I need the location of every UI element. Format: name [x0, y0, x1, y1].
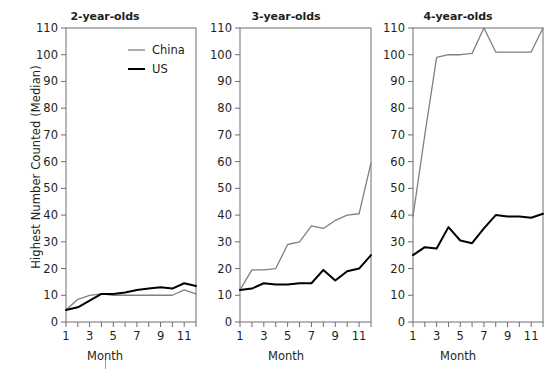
y-tick-label: 30 — [43, 235, 58, 249]
y-tick-label: 110 — [36, 21, 58, 35]
plot-frame — [413, 28, 543, 322]
series-line-china — [66, 290, 196, 310]
x-tick-label: 7 — [133, 329, 140, 343]
y-tick-label: 80 — [43, 101, 58, 115]
y-tick-label: 70 — [217, 128, 232, 142]
y-tick-label: 90 — [390, 74, 405, 88]
y-tick-label: 110 — [210, 21, 232, 35]
x-tick-label: 5 — [110, 329, 117, 343]
legend-label-us: US — [152, 62, 168, 76]
legend: ChinaUS — [128, 43, 185, 76]
y-tick-label: 110 — [383, 21, 405, 35]
x-tick-label: 5 — [457, 329, 464, 343]
y-tick-label: 0 — [398, 315, 405, 329]
y-tick-label: 100 — [210, 48, 232, 62]
x-tick-label: 3 — [433, 329, 440, 343]
y-tick-label: 40 — [217, 208, 232, 222]
y-tick-label: 40 — [390, 208, 405, 222]
x-tick-label: 5 — [284, 329, 291, 343]
y-tick-label: 100 — [383, 48, 405, 62]
x-tick-label: 1 — [409, 329, 416, 343]
y-tick-label: 60 — [390, 155, 405, 169]
y-tick-label: 10 — [217, 288, 232, 302]
panel-plot-2: 01020304050607080901001101357911 — [383, 21, 543, 343]
x-tick-label: 11 — [177, 329, 192, 343]
x-tick-label: 9 — [157, 329, 164, 343]
plot-canvas: 01020304050607080901001101357911ChinaUS0… — [0, 0, 553, 374]
x-tick-label: 3 — [260, 329, 267, 343]
x-tick-label: 1 — [62, 329, 69, 343]
y-tick-label: 30 — [390, 235, 405, 249]
x-tick-label: 3 — [86, 329, 93, 343]
y-tick-label: 20 — [390, 262, 405, 276]
legend-label-china: China — [152, 43, 185, 57]
x-tick-label: 7 — [308, 329, 315, 343]
y-tick-label: 80 — [390, 101, 405, 115]
y-tick-label: 90 — [217, 74, 232, 88]
x-tick-label: 9 — [332, 329, 339, 343]
y-tick-label: 20 — [217, 262, 232, 276]
y-tick-label: 50 — [217, 181, 232, 195]
y-tick-label: 60 — [43, 155, 58, 169]
panel-plot-0: 01020304050607080901001101357911ChinaUS — [36, 21, 196, 343]
x-tick-label: 1 — [236, 329, 243, 343]
y-tick-label: 60 — [217, 155, 232, 169]
y-tick-label: 80 — [217, 101, 232, 115]
y-tick-label: 100 — [36, 48, 58, 62]
y-tick-label: 50 — [43, 181, 58, 195]
y-tick-label: 30 — [217, 235, 232, 249]
y-tick-label: 20 — [43, 262, 58, 276]
y-tick-label: 50 — [390, 181, 405, 195]
plot-frame — [66, 28, 196, 322]
y-tick-label: 10 — [390, 288, 405, 302]
x-tick-label: 11 — [524, 329, 539, 343]
y-tick-label: 0 — [51, 315, 58, 329]
y-tick-label: 10 — [43, 288, 58, 302]
y-tick-label: 70 — [43, 128, 58, 142]
y-tick-label: 70 — [390, 128, 405, 142]
y-tick-label: 0 — [225, 315, 232, 329]
x-tick-label: 7 — [480, 329, 487, 343]
series-line-us — [413, 214, 543, 255]
series-line-us — [240, 255, 371, 290]
x-tick-label: 9 — [504, 329, 511, 343]
stray-tick-artifact — [105, 360, 106, 369]
y-tick-label: 40 — [43, 208, 58, 222]
y-tick-label: 90 — [43, 74, 58, 88]
panel-plot-1: 01020304050607080901001101357911 — [210, 21, 371, 343]
series-line-china — [413, 28, 543, 216]
chart-figure: Highest Number Counted (Median) 2-year-o… — [0, 0, 553, 374]
plot-frame — [240, 28, 371, 322]
x-tick-label: 11 — [352, 329, 367, 343]
